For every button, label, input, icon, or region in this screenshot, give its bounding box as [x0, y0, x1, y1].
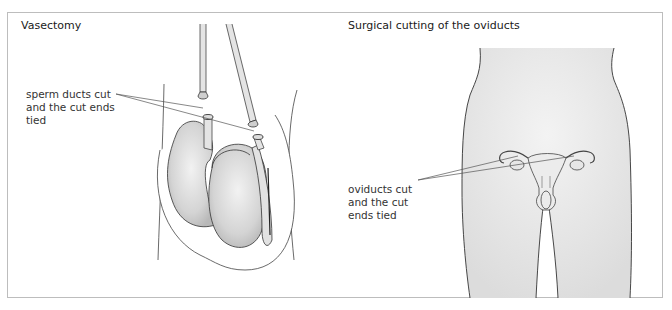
left-sperm-duct-lower	[204, 118, 212, 150]
illustrations	[0, 0, 672, 310]
left-sperm-duct-upper	[200, 24, 206, 92]
oviduct-illustration	[418, 48, 632, 298]
vasectomy-illustration	[116, 24, 297, 270]
right-ovary	[570, 160, 584, 170]
right-sperm-duct-upper	[226, 24, 256, 122]
